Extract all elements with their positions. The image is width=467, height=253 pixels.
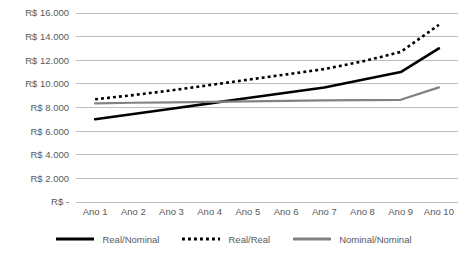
- x-axis-tick-label: Ano 2: [121, 206, 146, 217]
- x-axis-tick-label: Ano 5: [235, 206, 260, 217]
- legend-label: Nominal/Nominal: [339, 234, 411, 245]
- chart-canvas: R$ -R$ 2.000R$ 4.000R$ 6.000R$ 8.000R$ 1…: [0, 0, 467, 225]
- x-axis-tick-label: Ano 10: [424, 206, 454, 217]
- legend-item[interactable]: Real/Nominal: [55, 234, 159, 245]
- legend-swatch-solid: [55, 234, 95, 244]
- y-axis-tick-label: R$ 4.000: [30, 149, 69, 160]
- y-axis-tick-label: R$ 10.000: [25, 78, 69, 89]
- legend-swatch-solid: [292, 234, 332, 244]
- y-axis-tick-label: R$ 14.000: [25, 31, 69, 42]
- legend-label: Real/Nominal: [102, 234, 159, 245]
- legend-label: Real/Real: [228, 234, 270, 245]
- legend-swatch-dotted: [181, 234, 221, 244]
- x-axis-tick-label: Ano 6: [274, 206, 299, 217]
- x-axis-tick-label: Ano 9: [388, 206, 413, 217]
- x-axis-tick-label: Ano 8: [350, 206, 375, 217]
- y-axis-tick-labels: R$ -R$ 2.000R$ 4.000R$ 6.000R$ 8.000R$ 1…: [25, 7, 69, 207]
- y-axis-tick-label: R$ 6.000: [30, 126, 69, 137]
- y-axis-tick-label: R$ 2.000: [30, 173, 69, 184]
- chart-legend: Real/NominalReal/RealNominal/Nominal: [0, 228, 467, 250]
- y-axis-tick-label: R$ 8.000: [30, 102, 69, 113]
- data-series-group: [95, 25, 439, 120]
- line-chart: R$ -R$ 2.000R$ 4.000R$ 6.000R$ 8.000R$ 1…: [0, 0, 467, 253]
- y-axis-tick-label: R$ -: [51, 196, 69, 207]
- legend-item[interactable]: Real/Real: [181, 234, 270, 245]
- x-axis-tick-label: Ano 4: [197, 206, 222, 217]
- series-line-real-real: [95, 25, 439, 99]
- legend-item[interactable]: Nominal/Nominal: [292, 234, 411, 245]
- gridlines: [76, 13, 458, 202]
- x-axis-tick-label: Ano 1: [83, 206, 108, 217]
- y-axis-tick-label: R$ 16.000: [25, 7, 69, 18]
- x-axis-tick-label: Ano 7: [312, 206, 337, 217]
- plot-area: R$ -R$ 2.000R$ 4.000R$ 6.000R$ 8.000R$ 1…: [0, 0, 467, 225]
- x-axis-tick-label: Ano 3: [159, 206, 184, 217]
- x-axis-tick-labels: Ano 1Ano 2Ano 3Ano 4Ano 5Ano 6Ano 7Ano 8…: [83, 206, 454, 217]
- y-axis-tick-label: R$ 12.000: [25, 55, 69, 66]
